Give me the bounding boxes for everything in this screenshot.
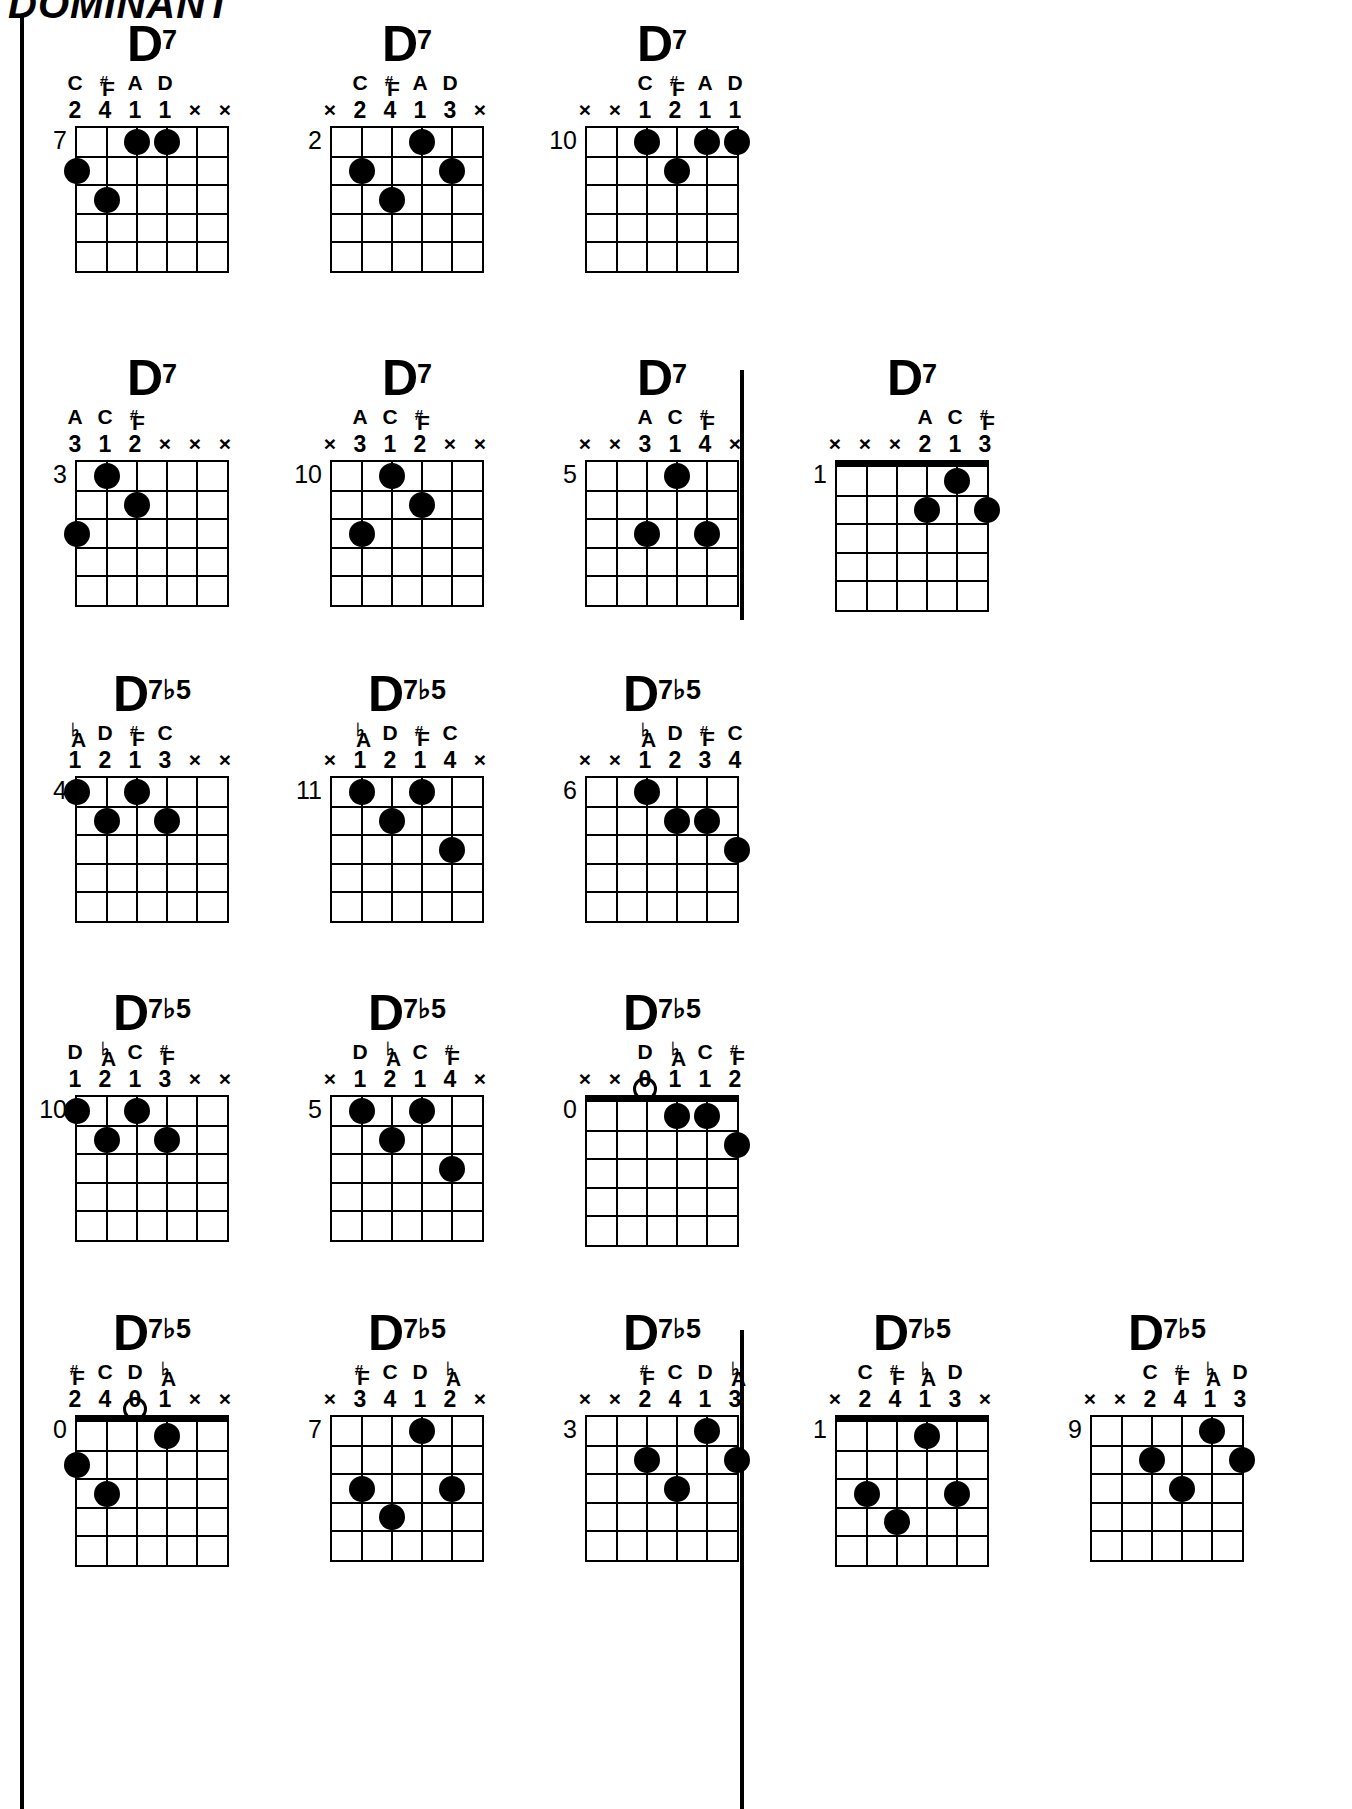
fret-line — [587, 891, 737, 893]
finger-dot — [664, 158, 690, 184]
finger-number: 3 — [61, 432, 89, 456]
chord-diagram[interactable]: D7ACF#312×××3 — [30, 350, 274, 610]
fretboard-grid[interactable] — [75, 126, 229, 273]
note-name-row: F#CDA♭ — [30, 1361, 274, 1387]
fretboard-grid[interactable] — [330, 1095, 484, 1242]
note-name: F# — [375, 72, 405, 100]
string-line — [196, 778, 198, 921]
note-name-row: F#CDA♭ — [540, 1361, 784, 1387]
finger-dot — [944, 468, 970, 494]
finger-number: 1 — [151, 98, 179, 122]
note-name: C — [720, 722, 750, 744]
finger-number: 3 — [346, 432, 374, 456]
fretboard-grid[interactable] — [330, 126, 484, 273]
fretboard-grid[interactable] — [330, 776, 484, 923]
note-name: F# — [120, 722, 150, 750]
fretboard-wrap: 11 — [285, 776, 529, 926]
fret-line — [587, 547, 737, 549]
fretboard-grid[interactable] — [585, 460, 739, 607]
note-name-row: DA♭CF# — [285, 1041, 529, 1067]
fretboard-grid[interactable] — [585, 126, 739, 273]
muted-string-marker: × — [211, 432, 239, 456]
chord-root: D — [637, 350, 672, 406]
chord-diagram[interactable]: D7♭5F#CDA♭×3412×7 — [285, 1305, 529, 1565]
chord-root: D — [113, 1305, 148, 1361]
muted-string-marker: × — [571, 1067, 599, 1091]
string-line — [196, 1097, 198, 1240]
start-fret-number: 0 — [537, 1098, 577, 1120]
chord-diagram[interactable]: D7ACF#×××2131 — [790, 350, 1034, 610]
fret-line — [77, 490, 227, 492]
fret-line — [587, 863, 737, 865]
finger-number: 1 — [406, 748, 434, 772]
start-fret-number: 3 — [27, 463, 67, 485]
finger-dot — [94, 187, 120, 213]
chord-diagram[interactable]: D7♭5A♭DF#C1213××4 — [30, 666, 274, 926]
fretboard-grid[interactable] — [75, 1095, 229, 1242]
chord-quality: 7♭5 — [1163, 1314, 1206, 1344]
chord-diagram[interactable]: D7♭5CF#A♭D×2413×1 — [790, 1305, 1034, 1565]
chord-name: D7♭5 — [540, 666, 784, 722]
muted-string-marker: × — [211, 98, 239, 122]
chord-diagram[interactable]: D7♭5F#CDA♭××24133 — [540, 1305, 784, 1565]
chord-root: D — [113, 985, 148, 1041]
note-name: F# — [1165, 1361, 1195, 1389]
muted-string-marker: × — [466, 98, 494, 122]
fret-line — [77, 518, 227, 520]
note-name: F# — [90, 72, 120, 100]
fretboard-grid[interactable] — [1090, 1415, 1244, 1562]
chord-diagram[interactable]: D7ACF#××314×5 — [540, 350, 784, 610]
finger-number: 1 — [631, 748, 659, 772]
finger-number: 2 — [661, 748, 689, 772]
fretboard-grid[interactable] — [330, 460, 484, 607]
fretboard-grid[interactable] — [585, 1095, 739, 1247]
chord-diagram[interactable]: D7♭5A♭DF#C××12346 — [540, 666, 784, 926]
muted-string-marker: × — [601, 1387, 629, 1411]
chord-diagram[interactable]: D7♭5DA♭CF#××01120 — [540, 985, 784, 1245]
muted-string-marker: × — [601, 432, 629, 456]
fret-line — [77, 1450, 227, 1452]
start-fret-number: 1 — [787, 463, 827, 485]
fret-line — [77, 184, 227, 186]
note-name: C — [60, 72, 90, 94]
chord-diagram[interactable]: D7CF#AD××121110 — [540, 16, 784, 276]
muted-string-marker: × — [821, 432, 849, 456]
chord-diagram[interactable]: D7♭5DA♭CF#1213××10 — [30, 985, 274, 1245]
chord-diagram[interactable]: D7♭5DA♭CF#×1214×5 — [285, 985, 529, 1245]
chord-diagram[interactable]: D7ACF#×312××10 — [285, 350, 529, 610]
muted-string-marker: × — [1076, 1387, 1104, 1411]
fretboard-grid[interactable] — [75, 1415, 229, 1567]
fretboard-grid[interactable] — [835, 1415, 989, 1567]
chord-name: D7♭5 — [285, 1305, 529, 1361]
fretboard-grid[interactable] — [330, 1415, 484, 1562]
finger-number: 3 — [631, 432, 659, 456]
chord-diagram[interactable]: D7♭5F#CDA♭2401××0 — [30, 1305, 274, 1565]
finger-number: 4 — [91, 98, 119, 122]
finger-number: 2 — [721, 1067, 749, 1091]
fretboard-grid[interactable] — [75, 460, 229, 607]
fretboard-wrap: 9 — [1045, 1415, 1289, 1565]
note-name: C — [150, 722, 180, 744]
finger-number: 3 — [436, 98, 464, 122]
chord-diagram[interactable]: D7♭5CF#A♭D××24139 — [1045, 1305, 1289, 1565]
chord-diagram[interactable]: D7CF#AD×2413×2 — [285, 16, 529, 276]
fretboard-grid[interactable] — [75, 776, 229, 923]
fretboard-grid[interactable] — [835, 460, 989, 612]
start-fret-number: 4 — [27, 779, 67, 801]
string-line — [136, 1422, 138, 1565]
fret-line — [332, 575, 482, 577]
muted-string-marker: × — [181, 1067, 209, 1091]
chord-diagram[interactable]: D7CF#AD2411××7 — [30, 16, 274, 276]
fret-line — [77, 156, 227, 158]
note-name: A — [345, 406, 375, 428]
fretboard-grid[interactable] — [585, 776, 739, 923]
fret-line — [77, 213, 227, 215]
note-name: F# — [405, 406, 435, 434]
finger-dot — [64, 779, 90, 805]
chord-quality: 7♭5 — [658, 675, 701, 705]
chord-diagram[interactable]: D7♭5A♭DF#C×1214×11 — [285, 666, 529, 926]
finger-dot — [64, 1452, 90, 1478]
note-name-row: F#CDA♭ — [285, 1361, 529, 1387]
muted-string-marker: × — [851, 432, 879, 456]
fretboard-grid[interactable] — [585, 1415, 739, 1562]
